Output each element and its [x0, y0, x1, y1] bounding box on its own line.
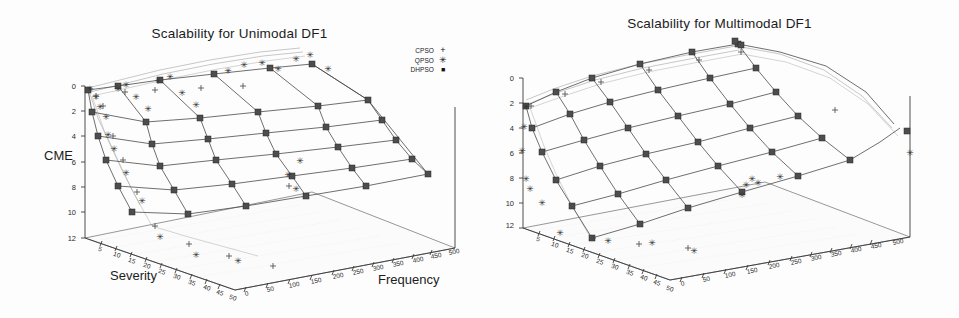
square-marker-icon: ■ [434, 65, 452, 75]
svg-text:15: 15 [127, 256, 136, 265]
svg-text:2: 2 [510, 99, 514, 108]
svg-text:✳: ✳ [604, 236, 612, 246]
svg-text:✳: ✳ [292, 54, 300, 64]
svg-text:✳: ✳ [518, 146, 526, 156]
svg-text:250: 250 [790, 257, 802, 266]
svg-text:450: 450 [870, 241, 882, 250]
svg-text:500: 500 [448, 247, 460, 256]
svg-text:35: 35 [625, 268, 634, 277]
svg-text:✳: ✳ [258, 58, 266, 68]
svg-text:400: 400 [850, 245, 862, 254]
svg-text:✳: ✳ [526, 184, 534, 194]
svg-text:40: 40 [639, 273, 648, 282]
svg-text:200: 200 [332, 271, 344, 280]
svg-text:✳: ✳ [520, 122, 528, 132]
svg-text:0: 0 [510, 74, 514, 83]
svg-text:✳: ✳ [192, 250, 200, 260]
svg-text:100: 100 [288, 280, 300, 289]
svg-text:350: 350 [830, 249, 842, 258]
svg-text:15: 15 [565, 246, 574, 255]
svg-text:✳: ✳ [538, 198, 546, 208]
svg-text:✳: ✳ [522, 174, 530, 184]
svg-text:45: 45 [652, 278, 661, 287]
svg-text:✳: ✳ [156, 232, 164, 242]
legend-label-cpso: CPSO [404, 46, 434, 56]
svg-text:✳: ✳ [192, 100, 200, 110]
svg-text:40: 40 [202, 283, 211, 292]
svg-text:25: 25 [595, 257, 604, 266]
svg-text:500: 500 [892, 237, 904, 246]
svg-text:✳: ✳ [114, 84, 122, 94]
z-axis-label-unimodal: CME [44, 148, 73, 163]
svg-text:200: 200 [768, 261, 780, 270]
svg-text:✳: ✳ [274, 64, 282, 74]
y-axis-label-unimodal: Frequency [378, 272, 439, 287]
svg-text:250: 250 [352, 267, 364, 276]
legend-label-dhpso: DHPSO [404, 65, 434, 75]
svg-text:✳: ✳ [556, 228, 564, 238]
chart-panel-multimodal: Scalability for Multimodal DF1 0 2 4 [480, 0, 959, 318]
svg-text:50: 50 [228, 293, 237, 302]
plot-canvas-multimodal: 0 2 4 6 8 10 12 5 10 15 20 25 30 35 40 4… [480, 0, 959, 318]
svg-text:✳: ✳ [906, 148, 914, 158]
svg-text:8: 8 [510, 174, 514, 183]
qpso-mesh-unimodal [88, 48, 303, 205]
svg-text:✳: ✳ [102, 112, 110, 122]
svg-text:✳: ✳ [132, 92, 140, 102]
qpso-mesh-multimodal [526, 46, 892, 128]
svg-text:10: 10 [112, 250, 121, 259]
svg-text:150: 150 [746, 266, 758, 275]
svg-text:✳: ✳ [154, 76, 162, 86]
svg-text:10: 10 [68, 208, 76, 217]
svg-text:450: 450 [430, 251, 442, 260]
svg-text:✳: ✳ [122, 168, 130, 178]
svg-text:300: 300 [372, 263, 384, 272]
svg-text:✳: ✳ [738, 190, 746, 200]
legend-label-qpso: QPSO [404, 56, 434, 66]
svg-text:20: 20 [580, 251, 589, 260]
svg-text:150: 150 [310, 276, 322, 285]
svg-text:25: 25 [157, 267, 166, 276]
legend-item-dhpso: DHPSO ■ [404, 65, 452, 75]
svg-text:✳: ✳ [234, 256, 242, 266]
svg-text:✳: ✳ [178, 88, 186, 98]
svg-text:✳: ✳ [292, 184, 300, 194]
svg-text:2: 2 [72, 107, 76, 116]
svg-text:10: 10 [550, 240, 559, 249]
svg-text:✳: ✳ [166, 72, 174, 82]
svg-text:✳: ✳ [122, 80, 130, 90]
svg-text:✳: ✳ [648, 238, 656, 248]
svg-text:✳: ✳ [110, 144, 118, 154]
chart-panel-unimodal: Scalability for Unimodal DF1 [0, 0, 479, 318]
svg-text:✳: ✳ [240, 60, 248, 70]
svg-text:6: 6 [510, 149, 514, 158]
svg-text:50: 50 [665, 284, 674, 293]
svg-text:300: 300 [810, 253, 822, 262]
svg-text:✳: ✳ [690, 246, 698, 256]
floor-plane [523, 182, 910, 280]
svg-text:4: 4 [72, 132, 76, 141]
svg-text:12: 12 [68, 234, 76, 243]
svg-text:✳: ✳ [754, 178, 762, 188]
svg-text:100: 100 [724, 270, 736, 279]
svg-text:✳: ✳ [144, 104, 152, 114]
legend-unimodal: CPSO + QPSO ✳ DHPSO ■ [404, 46, 452, 75]
svg-text:10: 10 [506, 199, 514, 208]
svg-text:4: 4 [510, 124, 514, 133]
svg-text:350: 350 [392, 259, 404, 268]
svg-text:✳: ✳ [324, 64, 332, 74]
svg-text:35: 35 [187, 278, 196, 287]
x-axis-label-unimodal: Severity [110, 268, 157, 283]
svg-text:✳: ✳ [306, 50, 314, 60]
asterisk-marker-icon: ✳ [434, 56, 452, 66]
svg-text:✳: ✳ [296, 156, 304, 166]
legend-item-qpso: QPSO ✳ [404, 56, 452, 66]
svg-text:✳: ✳ [776, 172, 784, 182]
svg-text:✳: ✳ [224, 66, 232, 76]
figure-root: Scalability for Unimodal DF1 [0, 0, 959, 318]
svg-text:30: 30 [610, 262, 619, 271]
svg-text:✳: ✳ [104, 130, 112, 140]
svg-text:45: 45 [215, 288, 224, 297]
svg-text:0: 0 [72, 82, 76, 91]
svg-text:✳: ✳ [284, 170, 292, 180]
